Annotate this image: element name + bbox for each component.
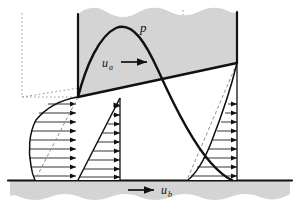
velocity-profile-linear — [78, 98, 120, 180]
upper-slider-fill — [78, 8, 237, 97]
velocity-profile-inlet — [29, 97, 78, 180]
upper-slider-block — [78, 8, 237, 97]
figure-canvas: u a p u b — [0, 0, 300, 213]
inlet-profile-fill — [29, 97, 78, 180]
lubrication-film-diagram: u a p u b — [0, 0, 300, 213]
pressure-label: p — [139, 20, 147, 35]
upper-velocity-label: u — [102, 56, 108, 70]
lower-velocity-label-subscript: b — [168, 190, 172, 199]
lower-velocity-label: u — [161, 183, 167, 197]
upper-velocity-label-subscript: a — [109, 63, 113, 72]
